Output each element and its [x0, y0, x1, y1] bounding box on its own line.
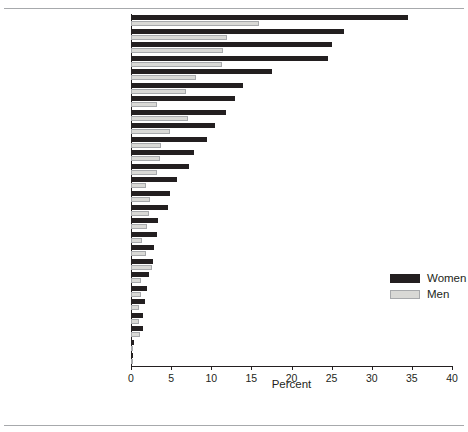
- bar-women: [131, 245, 154, 250]
- bar-men: [131, 359, 133, 364]
- bar-row: Kenya: [131, 96, 452, 110]
- bar-men: [131, 197, 150, 202]
- bar-row: South Africa: [131, 42, 452, 56]
- bar-men: [131, 292, 141, 297]
- bar-row: Nigeria: [131, 191, 452, 205]
- chart-figure: 0510152025303540 BotswanaLesothoSouth Af…: [0, 0, 468, 432]
- bar-row: Niger: [131, 313, 452, 327]
- bar-women: [131, 218, 158, 223]
- bar-women: [131, 299, 145, 304]
- bar-women: [131, 326, 143, 331]
- bar-men: [131, 211, 149, 216]
- bar-women: [131, 137, 207, 142]
- bar-women: [131, 150, 194, 155]
- bar-row: Honduras: [131, 326, 452, 340]
- bar-row: Rwanda: [131, 123, 452, 137]
- bar-men: [131, 265, 152, 270]
- bar-men: [131, 102, 157, 107]
- legend-item-men: Men: [390, 286, 466, 302]
- bar-men: [131, 62, 222, 67]
- bar-row: Equatorial Guinea: [131, 353, 452, 367]
- bar-women: [131, 110, 226, 115]
- bar-men: [131, 332, 140, 337]
- bar-men: [131, 89, 186, 94]
- bar-women: [131, 83, 243, 88]
- bar-women: [131, 340, 134, 345]
- bar-row: Zimbabwe: [131, 56, 452, 70]
- bar-women: [131, 29, 344, 34]
- legend-label-women: Women: [427, 272, 466, 284]
- bar-women: [131, 177, 177, 182]
- bar-men: [131, 238, 142, 243]
- bar-women: [131, 259, 153, 264]
- bar-rows: BotswanaLesothoSouth AfricaZimbabweZambi…: [131, 14, 452, 366]
- bar-men: [131, 251, 146, 256]
- bar-row: Gabon: [131, 205, 452, 219]
- bottom-rule: [4, 425, 464, 426]
- top-rule: [4, 8, 464, 9]
- bar-row: Burkina Faso: [131, 177, 452, 191]
- bar-row: India: [131, 340, 452, 354]
- x-axis-title: Percent: [131, 378, 452, 390]
- bar-men: [131, 278, 141, 283]
- bar-row: Cameroon: [131, 164, 452, 178]
- bar-row: Tanzania: [131, 150, 452, 164]
- x-tick: [452, 366, 453, 370]
- bar-women: [131, 56, 328, 61]
- legend: Women Men: [390, 270, 466, 302]
- bar-men: [131, 143, 161, 148]
- bar-men: [131, 305, 139, 310]
- bar-row: Botswana: [131, 15, 452, 29]
- bar-men: [131, 346, 133, 351]
- plot-area: 0510152025303540 BotswanaLesothoSouth Af…: [131, 14, 452, 366]
- bar-women: [131, 42, 332, 47]
- bar-women: [131, 205, 168, 210]
- bar-men: [131, 35, 227, 40]
- bar-women: [131, 286, 147, 291]
- legend-swatch-men-icon: [390, 290, 420, 299]
- bar-women: [131, 164, 189, 169]
- bar-men: [131, 156, 160, 161]
- bar-row: Ethiopia: [131, 110, 452, 124]
- bar-row: Côte d’Ivoire: [131, 137, 452, 151]
- bar-row: Ghana: [131, 232, 452, 246]
- bar-women: [131, 313, 143, 318]
- bar-row: Lesotho: [131, 29, 452, 43]
- bar-row: Cambodia: [131, 218, 452, 232]
- bar-men: [131, 21, 259, 26]
- bar-women: [131, 69, 272, 74]
- legend-swatch-women-icon: [390, 274, 420, 283]
- bar-women: [131, 353, 133, 358]
- bar-women: [131, 272, 149, 277]
- bar-men: [131, 116, 188, 121]
- bar-men: [131, 319, 139, 324]
- legend-item-women: Women: [390, 270, 466, 286]
- bar-men: [131, 224, 147, 229]
- bar-women: [131, 191, 170, 196]
- bar-row: Central African Republic: [131, 83, 452, 97]
- bar-women: [131, 232, 157, 237]
- bar-women: [131, 96, 235, 101]
- bar-row: Zambia: [131, 69, 452, 83]
- bar-men: [131, 48, 223, 53]
- bar-row: Chad: [131, 245, 452, 259]
- bar-men: [131, 170, 157, 175]
- legend-label-men: Men: [427, 288, 449, 300]
- bar-men: [131, 129, 170, 134]
- bar-men: [131, 183, 146, 188]
- bar-women: [131, 15, 408, 20]
- bar-men: [131, 75, 196, 80]
- bar-women: [131, 123, 215, 128]
